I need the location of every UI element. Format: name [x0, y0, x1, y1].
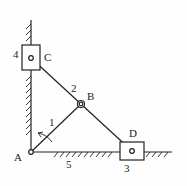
- label-1: 1: [49, 116, 55, 128]
- link-1-crank: [31, 104, 81, 152]
- mechanism-diagram: 4 C 2 B 1 D A 5 3: [0, 0, 187, 186]
- joint-d: [130, 149, 135, 154]
- label-d: D: [129, 127, 137, 139]
- label-c: C: [44, 51, 51, 63]
- joint-b: [78, 101, 85, 108]
- label-4: 4: [13, 48, 19, 60]
- label-b: B: [87, 90, 94, 102]
- label-3: 3: [124, 162, 130, 174]
- label-2: 2: [71, 82, 77, 94]
- wall-hatching: [26, 24, 31, 135]
- label-a: A: [14, 151, 22, 163]
- ground-hatching: [54, 152, 168, 157]
- joint-c: [29, 56, 34, 61]
- label-5: 5: [66, 158, 72, 170]
- joint-a: [29, 150, 34, 155]
